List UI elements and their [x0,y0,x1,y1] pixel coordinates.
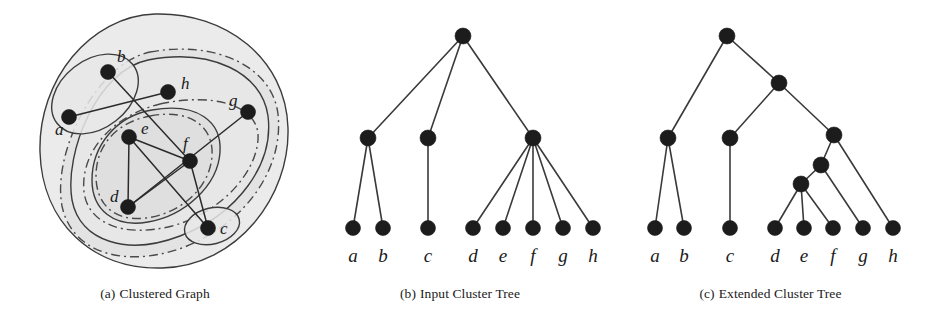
input-tree-label-b: b [378,245,388,266]
extended-tree-leaf-a[interactable] [648,221,663,236]
graph-label-d: d [110,187,119,206]
extended-tree-leaf-f[interactable] [826,221,841,236]
input-tree-edge-root-n2 [428,36,463,138]
extended-tree-node-defg[interactable] [813,157,829,173]
extended-tree-label-a: a [650,245,660,266]
panel-input-cluster-tree: a b c d e f g h (b)Input Cluster Tree [310,0,610,329]
extended-tree-label-c: c [726,245,735,266]
input-tree-leaf-e[interactable] [496,221,511,236]
input-tree-leaf-f[interactable] [526,221,541,236]
panel-clustered-graph: a b c d e f g h (a)Clustered Graph [0,0,310,329]
graph-vertex-a[interactable] [62,110,77,125]
caption-extended-cluster-tree: (c)Extended Cluster Tree [610,286,931,302]
extended-tree-label-b: b [679,245,689,266]
extended-tree-node-root[interactable] [719,28,735,44]
extended-tree-leaf-c[interactable] [723,221,738,236]
graph-vertex-b[interactable] [101,65,116,80]
input-tree-leaf-labels: a b c d e f g h [348,245,598,266]
input-tree-leaf-b[interactable] [376,221,391,236]
extended-tree-label-h: h [888,245,898,266]
input-tree-leaf-c[interactable] [421,221,436,236]
input-tree-node-defgh[interactable] [525,130,541,146]
input-tree-label-c: c [424,245,433,266]
graph-label-g: g [229,91,238,110]
input-tree-leaf-a[interactable] [346,221,361,236]
extended-tree-leaf-h[interactable] [886,221,901,236]
input-cluster-tree-svg: a b c d e f g h [310,0,610,286]
extended-tree-node-cdefgh[interactable] [771,75,787,91]
extended-tree-node-ab[interactable] [660,130,676,146]
graph-edge-e-d [128,137,129,207]
graph-vertex-d[interactable] [121,200,136,215]
caption-tag-b: (b) [400,286,416,301]
extended-tree-label-f: f [830,245,838,266]
graph-vertex-f[interactable] [183,154,198,169]
input-tree-label-e: e [499,245,507,266]
caption-input-cluster-tree: (b)Input Cluster Tree [310,286,610,302]
input-tree-node-ab[interactable] [360,130,376,146]
caption-clustered-graph: (a)Clustered Graph [0,286,310,302]
extended-tree-edge-n1-b [668,138,684,228]
extended-tree-edge-n4-h [834,135,893,228]
extended-tree-leaf-b[interactable] [677,221,692,236]
input-tree-edge-root-n1 [368,36,463,138]
graph-label-a: a [55,120,64,139]
caption-tag-c: (c) [699,286,714,301]
input-tree-edge-root-n3 [463,36,533,138]
input-tree-label-d: d [468,245,478,266]
graph-vertex-g[interactable] [241,105,256,120]
extended-tree-label-d: d [770,245,780,266]
input-tree-edge-n3-h [533,138,593,228]
input-tree-internal-nodes [360,28,541,146]
extended-tree-edge-n2-n3 [730,83,779,138]
graph-label-h: h [181,74,190,93]
graph-label-c: c [220,219,228,238]
input-tree-node-c[interactable] [420,130,436,146]
extended-tree-internal-nodes [660,28,842,192]
caption-text-c: Extended Cluster Tree [719,286,842,301]
extended-tree-leaf-e[interactable] [797,221,812,236]
extended-tree-node-c[interactable] [722,130,738,146]
extended-tree-edge-n5-g [821,165,863,228]
caption-tag-a: (a) [100,286,115,301]
graph-label-b: b [117,47,126,66]
graph-label-e: e [141,119,149,138]
input-tree-label-f: f [530,245,538,266]
extended-tree-label-e: e [800,245,808,266]
extended-tree-node-def[interactable] [793,176,809,192]
extended-cluster-tree-svg: a b c d e f g h [610,0,931,286]
input-tree-leaf-d[interactable] [466,221,481,236]
clustered-graph-svg: a b c d e f g h [0,0,310,286]
extended-tree-node-defgh[interactable] [826,127,842,143]
input-tree-edge-n1-a [353,138,368,228]
figure-container: a b c d e f g h (a)Clustered Graph [0,0,931,329]
input-tree-leaf-g[interactable] [556,221,571,236]
input-tree-edge-n3-d [473,138,533,228]
input-tree-label-h: h [588,245,598,266]
input-tree-edge-n3-g [533,138,563,228]
caption-text-b: Input Cluster Tree [420,286,520,301]
extended-tree-edge-root-n2 [727,36,779,83]
extended-tree-edge-root-n1 [668,36,727,138]
input-tree-edge-n3-e [503,138,533,228]
input-tree-node-root[interactable] [455,28,471,44]
panel-extended-cluster-tree: a b c d e f g h (c)Extended Cluster Tree [610,0,931,329]
extended-tree-leaf-d[interactable] [768,221,783,236]
graph-vertex-c[interactable] [201,221,216,236]
extended-tree-edges [655,36,893,228]
extended-tree-leaf-labels: a b c d e f g h [650,245,898,266]
input-tree-leaf-h[interactable] [586,221,601,236]
extended-tree-edge-n1-a [655,138,668,228]
graph-vertex-e[interactable] [122,130,137,145]
input-tree-label-g: g [558,245,568,266]
extended-tree-label-g: g [858,245,868,266]
graph-vertex-h[interactable] [161,85,176,100]
input-tree-label-a: a [348,245,358,266]
input-tree-edge-n1-b [368,138,383,228]
input-tree-edges [353,36,593,228]
extended-tree-edge-n2-n4 [779,83,834,135]
extended-tree-leaf-nodes [648,221,901,236]
extended-tree-leaf-g[interactable] [856,221,871,236]
input-tree-leaf-nodes [346,221,601,236]
caption-text-a: Clustered Graph [119,286,209,301]
